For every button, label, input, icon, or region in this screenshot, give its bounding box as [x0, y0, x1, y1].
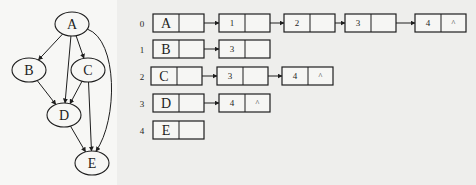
diagram-svg: ABCDE 0A1234^1B32C34^3D4^4E [0, 0, 476, 185]
vertex-head-e: E [153, 121, 204, 139]
adjvex-label: 1 [230, 18, 235, 28]
adj-row-1: 1B3 [140, 40, 270, 58]
vertex-label: C [159, 69, 168, 84]
null-pointer-symbol: ^ [319, 72, 323, 81]
edge-a-to-d [65, 36, 71, 103]
vertex-head-c: C [151, 67, 202, 85]
vertex-label: D [161, 96, 171, 111]
edge-node-3: 3 [345, 14, 396, 32]
edge-node-4: 4^ [219, 94, 270, 112]
adj-row-0: 0A1234^ [140, 14, 466, 32]
edge-a-to-b [38, 34, 62, 60]
vertex-label: B [161, 42, 170, 57]
edge-b-to-d [37, 81, 56, 105]
adj-row-2: 2C34^ [140, 67, 333, 85]
node-label: E [88, 156, 97, 171]
adjvex-label: 4 [230, 98, 235, 108]
node-label: A [67, 17, 78, 32]
diagram-canvas: ABCDE 0A1234^1B32C34^3D4^4E [0, 0, 476, 185]
adj-row-3: 3D4^ [140, 94, 270, 112]
null-pointer-symbol: ^ [452, 19, 456, 28]
adjacency-list: 0A1234^1B32C34^3D4^4E [140, 14, 466, 139]
edge-a-to-c [76, 36, 84, 59]
vertex-label: E [162, 123, 171, 138]
edge-d-to-e [70, 126, 85, 152]
edge-node-4: 4^ [415, 14, 466, 32]
vertex-label: A [161, 16, 172, 31]
adjvex-label: 3 [356, 18, 361, 28]
adjvex-label: 4 [293, 71, 298, 81]
adj-row-4: 4E [140, 121, 204, 139]
vertex-head-d: D [153, 94, 204, 112]
edge-node-3: 3 [217, 67, 268, 85]
edge-c-to-e [89, 82, 92, 151]
vertex-head-a: A [153, 14, 204, 32]
node-label: B [24, 63, 33, 78]
graph-node-d: D [47, 103, 81, 127]
edge-node-1: 1 [219, 14, 270, 32]
graph-node-a: A [55, 12, 89, 36]
row-index-label: 3 [140, 99, 145, 109]
row-index-label: 1 [140, 45, 145, 55]
adjvex-label: 4 [426, 18, 431, 28]
edge-node-2: 2 [284, 14, 335, 32]
adjvex-label: 3 [230, 44, 235, 54]
vertex-head-b: B [153, 40, 204, 58]
graph-edges [37, 29, 111, 152]
adjvex-label: 2 [295, 18, 300, 28]
edge-node-4: 4^ [282, 67, 333, 85]
graph-node-e: E [75, 151, 109, 175]
node-label: D [59, 108, 69, 123]
node-label: C [83, 63, 92, 78]
adjvex-label: 3 [228, 71, 233, 81]
row-index-label: 2 [140, 72, 145, 82]
graph-node-c: C [71, 58, 105, 82]
edge-node-3: 3 [219, 40, 270, 58]
graph-node-b: B [12, 58, 46, 82]
row-index-label: 0 [140, 19, 145, 29]
row-index-label: 4 [140, 126, 145, 136]
null-pointer-symbol: ^ [256, 99, 260, 108]
edge-c-to-d [70, 81, 82, 104]
